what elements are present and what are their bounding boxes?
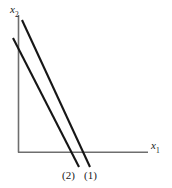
constraint-line-1 bbox=[22, 20, 90, 167]
y-axis-label-subscript: 2 bbox=[15, 10, 19, 19]
constraint-line-2-label: (2) bbox=[62, 170, 75, 181]
x-axis-label: x1 bbox=[151, 140, 160, 154]
constraint-line-1-label: (1) bbox=[84, 170, 97, 181]
diagram-canvas bbox=[0, 0, 172, 188]
constraint-line-2 bbox=[13, 38, 79, 167]
y-axis-label: x2 bbox=[10, 4, 19, 18]
x-axis-label-subscript: 1 bbox=[156, 146, 160, 155]
figure-container: x2 x1 (2) (1) bbox=[0, 0, 172, 188]
